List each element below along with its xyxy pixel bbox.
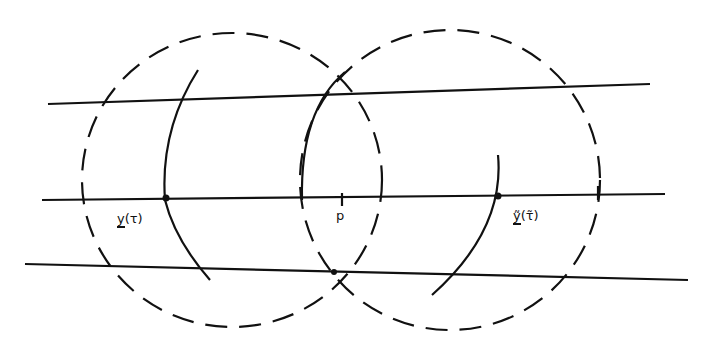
- y-tilde-point: [495, 193, 502, 200]
- y-tau-point: [163, 195, 170, 202]
- left-arc: [164, 70, 210, 280]
- label-y-tau: y(τ): [117, 211, 143, 226]
- right-dashed-circle: [300, 30, 600, 330]
- diagram-canvas: [0, 0, 708, 353]
- label-y-tilde: ỹ(τ̃): [513, 208, 539, 223]
- center-arc-upper: [302, 72, 345, 200]
- label-ytilde-base: ỹ: [513, 208, 521, 225]
- label-p: p: [336, 208, 344, 223]
- middle-line: [42, 194, 665, 200]
- label-y-base: y: [117, 211, 125, 228]
- label-ytilde-arg: (τ̃): [521, 208, 539, 223]
- left-dashed-circle: [82, 33, 382, 327]
- label-y-arg: (τ): [125, 211, 143, 226]
- bottom-line: [25, 264, 688, 280]
- lower-intersection-point: [331, 269, 337, 275]
